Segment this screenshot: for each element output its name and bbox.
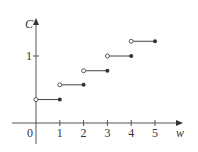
closed-dot-icon — [105, 69, 109, 73]
x-tick-label: 4 — [128, 126, 134, 140]
open-dot-icon — [34, 98, 38, 102]
x-tick-label: 2 — [81, 126, 87, 140]
open-dot-icon — [82, 69, 86, 73]
step-segment — [82, 69, 110, 73]
closed-dot-icon — [82, 83, 86, 87]
closed-dot-icon — [58, 98, 62, 102]
open-dot-icon — [58, 83, 62, 87]
origin-label: 0 — [27, 126, 33, 140]
step-segment — [58, 83, 86, 87]
y-axis-arrow-icon — [33, 18, 39, 25]
x-tick-label: 3 — [104, 126, 110, 140]
step-chart: 12345 C 1 0 w — [0, 0, 198, 152]
step-segments — [34, 39, 157, 101]
y-tick-label-1: 1 — [26, 49, 32, 63]
step-segment — [129, 39, 157, 43]
ticks: 12345 — [33, 56, 158, 140]
step-segment — [34, 98, 62, 102]
y-axis-label: C — [25, 17, 34, 31]
x-axis-label: w — [176, 126, 184, 140]
x-tick-label: 1 — [57, 126, 63, 140]
axis-labels: C 1 0 w — [25, 17, 184, 140]
open-dot-icon — [105, 54, 109, 58]
step-segment — [105, 54, 133, 58]
closed-dot-icon — [153, 39, 157, 43]
closed-dot-icon — [129, 54, 133, 58]
chart-root: 12345 C 1 0 w — [0, 0, 198, 152]
open-dot-icon — [129, 39, 133, 43]
x-tick-label: 5 — [152, 126, 158, 140]
